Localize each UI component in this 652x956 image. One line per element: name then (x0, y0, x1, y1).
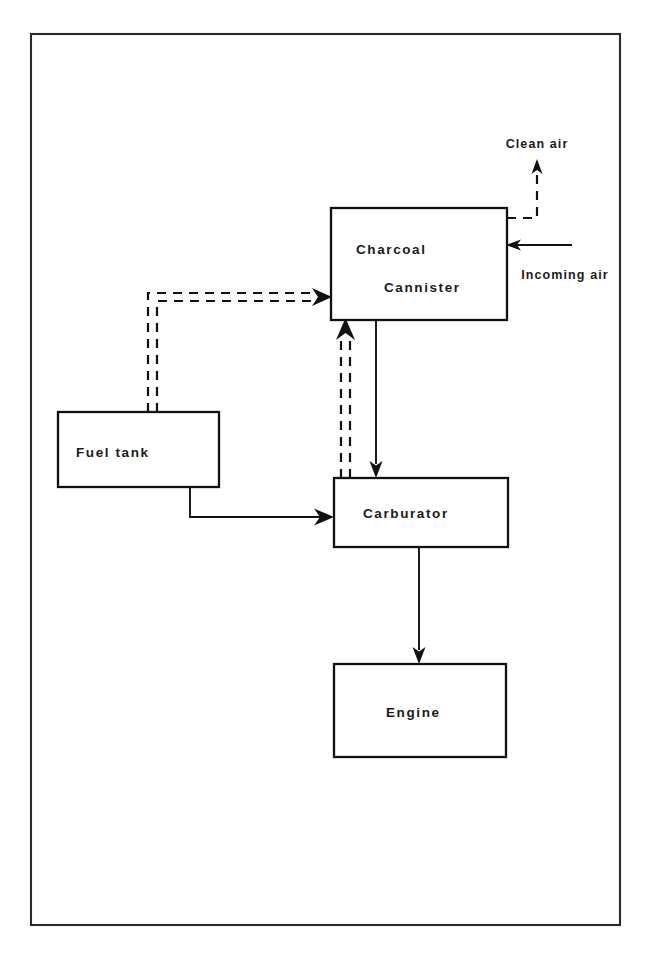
arrow-head-carburator-vapor (336, 318, 355, 340)
connector-fuel-tank-vapor-to-cannister (148, 288, 332, 412)
evaporative-emission-diagram: Charcoal Cannister Fuel tank Carburator … (0, 0, 652, 956)
engine-label: Engine (386, 705, 441, 720)
node-fuel-tank[interactable]: Fuel tank (58, 412, 219, 487)
connector-clean-air-vent (507, 159, 543, 218)
connector-cannister-purge-to-carburator (370, 320, 383, 478)
charcoal-cannister-label-line1: Charcoal (356, 242, 427, 257)
connector-carburator-to-engine (413, 547, 426, 664)
node-charcoal-cannister[interactable]: Charcoal Cannister (331, 208, 507, 320)
clean-air-label: Clean air (506, 137, 569, 151)
connector-fuel-tank-to-carburator (190, 487, 334, 526)
node-carburator[interactable]: Carburator (334, 478, 508, 547)
incoming-air-label: Incoming air (521, 268, 609, 282)
arrow-head-fuel-vapor (312, 288, 332, 306)
connector-carburator-vapor-to-cannister (336, 318, 355, 478)
arrow-head-clean-air (532, 159, 543, 174)
node-engine[interactable]: Engine (334, 664, 506, 757)
diagram-page: Charcoal Cannister Fuel tank Carburator … (0, 0, 652, 956)
fuel-tank-label: Fuel tank (76, 445, 150, 460)
charcoal-cannister-label-line2: Cannister (384, 280, 461, 295)
carburator-label: Carburator (363, 506, 449, 521)
connector-incoming-air-inlet (506, 240, 572, 251)
